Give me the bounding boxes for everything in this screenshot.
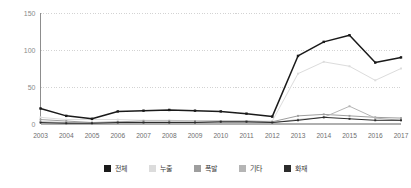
- x-tick-label: 2011: [239, 132, 254, 139]
- x-tick-label: 2007: [136, 132, 151, 139]
- legend-swatch-icon: [239, 165, 246, 172]
- legend-swatch-icon: [149, 165, 156, 172]
- x-tick-label: 2009: [188, 132, 203, 139]
- x-tick-label: 2015: [342, 132, 357, 139]
- y-axis-tick-labels: 050100150: [24, 10, 36, 128]
- y-tick-label: 0: [32, 121, 36, 128]
- legend-label: 누출: [160, 165, 172, 172]
- data-series-layer: [39, 34, 402, 124]
- x-tick-label: 2014: [316, 132, 331, 139]
- x-tick-label: 2006: [110, 132, 125, 139]
- legend-swatch-icon: [104, 165, 111, 172]
- x-tick-label: 2016: [368, 132, 383, 139]
- x-tick-label: 2010: [213, 132, 228, 139]
- x-tick-label: 2003: [33, 132, 48, 139]
- x-tick-label: 2013: [291, 132, 306, 139]
- x-tick-label: 2008: [162, 132, 177, 139]
- line-chart: 050100150 200320042005200620072008200920…: [0, 0, 411, 188]
- legend-label: 폭발: [205, 165, 217, 172]
- legend-item-2[interactable]: 폭발: [194, 165, 217, 172]
- x-tick-label: 2017: [394, 132, 409, 139]
- x-axis-tick-labels: 2003200420052006200720082009201020112012…: [33, 132, 409, 139]
- legend-item-3[interactable]: 기타: [239, 165, 262, 172]
- x-tick-label: 2004: [59, 132, 74, 139]
- series-1: [40, 61, 402, 122]
- x-tick-label: 2012: [265, 132, 280, 139]
- legend-item-1[interactable]: 누출: [149, 165, 172, 172]
- chart-legend: 전체누출폭발기타화재: [0, 158, 411, 178]
- y-tick-label: 100: [24, 47, 36, 54]
- legend-label: 전체: [115, 165, 127, 172]
- legend-item-4[interactable]: 화재: [284, 165, 307, 172]
- x-tick-label: 2005: [85, 132, 100, 139]
- legend-label: 화재: [295, 165, 307, 172]
- legend-label: 기타: [250, 165, 262, 172]
- y-tick-label: 150: [24, 10, 36, 17]
- legend-swatch-icon: [194, 165, 201, 172]
- legend-swatch-icon: [284, 165, 291, 172]
- legend-item-0[interactable]: 전체: [104, 165, 127, 172]
- y-tick-label: 50: [28, 84, 36, 91]
